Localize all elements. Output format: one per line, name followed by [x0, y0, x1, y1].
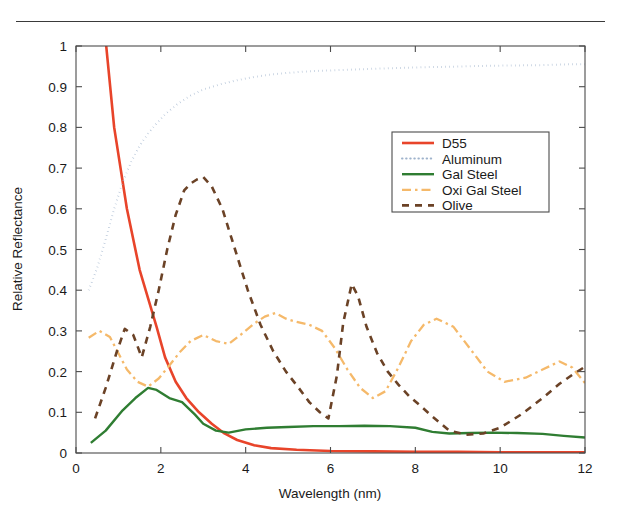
x-tick-label: 6 — [327, 461, 335, 476]
x-tick-label: 2 — [157, 461, 165, 476]
legend-label-d55: D55 — [442, 136, 467, 151]
x-tick-labels: 024681012 — [72, 461, 592, 476]
y-tick-label: 0.9 — [48, 80, 67, 95]
y-tick-label: 0.1 — [48, 405, 67, 420]
header-divider — [16, 21, 605, 22]
y-tick-label: 0.5 — [48, 243, 67, 258]
chart-legend: D55AluminumGal SteelOxi Gal SteelOlive — [392, 132, 549, 213]
y-axis-title: Relative Reflectance — [10, 187, 25, 311]
x-tick-label: 10 — [493, 461, 508, 476]
y-tick-label: 0.4 — [48, 283, 67, 298]
y-tick-label: 0 — [59, 446, 67, 461]
legend-label-oxi-gal-steel: Oxi Gal Steel — [442, 183, 522, 198]
axis-ticks — [76, 46, 585, 453]
series-line-oxi-gal-steel — [89, 313, 585, 398]
legend-label-gal-steel: Gal Steel — [442, 167, 498, 182]
y-tick-label: 0.8 — [48, 120, 67, 135]
y-tick-label: 0.6 — [48, 202, 67, 217]
series-line-gal-steel — [91, 388, 585, 443]
y-tick-label: 1 — [59, 39, 67, 54]
x-tick-label: 12 — [577, 461, 592, 476]
series-line-olive — [95, 177, 585, 435]
x-tick-label: 0 — [72, 461, 80, 476]
y-tick-label: 0.2 — [48, 365, 67, 380]
figure-page: 024681012 00.10.20.30.40.50.60.70.80.91 … — [0, 0, 621, 505]
y-tick-label: 0.3 — [48, 324, 67, 339]
y-tick-labels: 00.10.20.30.40.50.60.70.80.91 — [48, 39, 67, 461]
reflectance-line-chart: 024681012 00.10.20.30.40.50.60.70.80.91 … — [0, 30, 621, 505]
x-tick-label: 4 — [242, 461, 250, 476]
legend-label-olive: Olive — [442, 198, 473, 213]
y-tick-label: 0.7 — [48, 161, 67, 176]
plot-frame — [76, 46, 585, 453]
x-axis-title: Wavelength (nm) — [279, 486, 381, 501]
chart-figure: 024681012 00.10.20.30.40.50.60.70.80.91 … — [0, 30, 621, 505]
legend-label-aluminum: Aluminum — [442, 152, 502, 167]
series-line-d55 — [91, 30, 585, 452]
series-layer — [89, 30, 585, 452]
x-tick-label: 8 — [412, 461, 420, 476]
